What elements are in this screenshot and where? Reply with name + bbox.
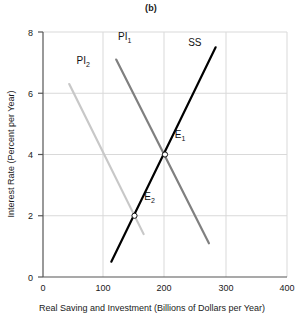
x-tick-label-300: 300 <box>218 283 233 293</box>
y-tick-label-0: 0 <box>28 273 33 283</box>
y-tick-marks <box>38 32 43 277</box>
annotation-labels: E1 E2 <box>144 129 185 205</box>
x-axis-title: Real Saving and Investment (Billions of … <box>39 303 265 313</box>
annotation-label-e2-sub: 2 <box>151 197 155 204</box>
marker-e1 <box>162 152 167 157</box>
annotation-label-e1: E1 <box>175 129 186 142</box>
curve-label-pi1-sub: 1 <box>127 37 131 44</box>
curve-labels: SS PI1 PI2 <box>77 31 202 69</box>
x-tick-labels: 0 100 200 300 400 <box>40 283 294 293</box>
x-tick-label-200: 200 <box>156 283 171 293</box>
y-tick-labels: 8 6 4 2 0 <box>28 28 33 283</box>
curve-label-pi1: PI1 <box>118 31 131 44</box>
curve-pi2 <box>69 84 143 234</box>
x-tick-label-100: 100 <box>95 283 110 293</box>
curve-label-pi2: PI2 <box>77 55 90 68</box>
marker-e2 <box>132 213 137 218</box>
y-tick-label-8: 8 <box>28 28 33 38</box>
y-tick-label-6: 6 <box>28 89 33 99</box>
y-axis-title: Interest Rate (Percent per Year) <box>6 90 16 217</box>
curve-label-pi1-base: PI <box>118 31 127 42</box>
y-tick-label-4: 4 <box>28 150 33 160</box>
x-tick-label-0: 0 <box>40 283 45 293</box>
y-tick-label-2: 2 <box>28 211 33 221</box>
annotation-label-e2: E2 <box>144 191 155 204</box>
curve-label-ss: SS <box>188 37 202 48</box>
curve-label-pi2-base: PI <box>77 55 86 66</box>
figure-panel-b: (b) 8 6 4 <box>0 0 302 321</box>
x-tick-label-400: 400 <box>279 283 294 293</box>
chart-plot: 8 6 4 2 0 0 100 200 300 400 SS <box>0 0 302 321</box>
annotation-label-e1-sub: 1 <box>181 135 185 142</box>
curve-label-ss-base: SS <box>188 37 202 48</box>
curve-label-pi2-sub: 2 <box>86 61 90 68</box>
